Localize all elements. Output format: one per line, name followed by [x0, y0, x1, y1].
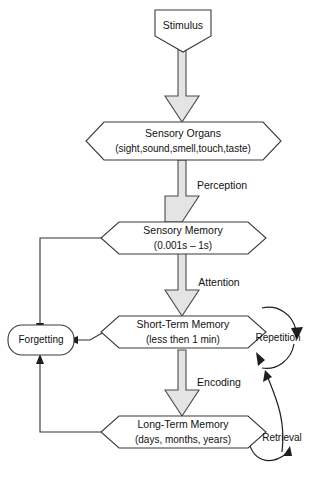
node-repetition-label: Repetition — [255, 332, 300, 343]
curve-repetition-loop-left — [262, 344, 294, 368]
memory-flow-diagram: Stimulus Sensory Organs (sight,sound,sme… — [0, 0, 318, 484]
line-short-term-to-forgetting — [76, 332, 104, 340]
node-short-term-memory-sublabel: (less then 1 min) — [146, 334, 220, 345]
arrowhead-long-term-to-retrieval — [283, 446, 292, 456]
node-long-term-memory-label: Long-Term Memory — [137, 418, 229, 430]
arrow-encoding — [165, 350, 199, 416]
line-long-term-to-forgetting — [40, 362, 104, 432]
node-stimulus-label: Stimulus — [163, 19, 203, 31]
flow-diagram-canvas: Stimulus Sensory Organs (sight,sound,sme… — [0, 0, 318, 484]
edge-label-encoding: Encoding — [197, 376, 241, 388]
arrow-attention — [165, 252, 199, 316]
edge-label-attention: Attention — [198, 276, 240, 288]
arrow-stimulus-to-sensory-organs — [165, 48, 199, 122]
node-forgetting-label: Forgetting — [18, 334, 63, 345]
node-sensory-organs-sublabel: (sight,sound,smell,touch,taste) — [115, 143, 251, 154]
node-sensory-memory-sublabel: (0.001s – 1s) — [154, 240, 212, 251]
node-short-term-memory-label: Short-Term Memory — [137, 318, 231, 330]
curve-repetition-loop-right — [262, 307, 296, 330]
line-sensory-memory-to-forgetting — [40, 238, 104, 325]
node-stimulus-shape — [155, 10, 211, 52]
arrowhead-repetition-up — [256, 352, 265, 366]
edge-label-perception: Perception — [197, 179, 247, 191]
node-retrieval-label: Retrieval — [262, 432, 301, 443]
arrowhead-retrieval-to-repetition — [263, 370, 272, 382]
node-sensory-organs-label: Sensory Organs — [145, 127, 221, 139]
arrow-perception — [165, 160, 199, 222]
node-long-term-memory-sublabel: (days, months, years) — [135, 434, 231, 445]
node-sensory-memory-label: Sensory Memory — [143, 224, 223, 236]
